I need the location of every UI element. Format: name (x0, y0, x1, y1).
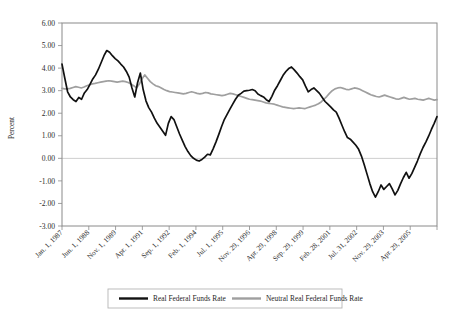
y-tick-label: -1.00 (39, 177, 55, 186)
x-tick-label: Feb. 1, 1994 (166, 228, 198, 260)
y-tick-label: 0.00 (42, 154, 55, 163)
y-tick-label: 5.00 (42, 41, 55, 50)
y-tick-label: 6.00 (42, 19, 55, 28)
y-tick-label: -3.00 (39, 222, 55, 231)
x-tick-label: Nov. 1, 1989 (85, 228, 118, 261)
plot-area-frame (62, 23, 437, 226)
y-tick-label: 3.00 (42, 86, 55, 95)
y-tick-label: -2.00 (39, 199, 55, 208)
y-tick-label: 2.00 (42, 109, 55, 118)
series-real-federal-funds-rate (62, 51, 437, 198)
legend-label-neutral-real-federal-funds-rate: Neutral Real Federal Funds Rate (266, 294, 364, 303)
figure-container: Percent 6.005.004.003.002.001.000.00-1.0… (0, 0, 449, 322)
y-tick-label: 4.00 (42, 64, 55, 73)
legend-label-real-federal-funds-rate: Real Federal Funds Rate (153, 294, 227, 303)
y-axis-title: Percent (7, 116, 16, 139)
legend: Real Federal Funds Rate Neutral Real Fed… (108, 289, 364, 308)
series-neutral-real-federal-funds-rate (62, 75, 437, 109)
y-tick-label: 1.00 (42, 131, 55, 140)
y-axis-ticks: 6.005.004.003.002.001.000.00-1.00-2.00-3… (39, 19, 62, 231)
y-axis-title-text: Percent (7, 116, 16, 139)
line-chart: Percent 6.005.004.003.002.001.000.00-1.0… (0, 0, 449, 322)
x-axis-tick-labels: Jan. 1, 1987Jun. 1, 1988Nov. 1, 1989Apr.… (33, 228, 413, 264)
